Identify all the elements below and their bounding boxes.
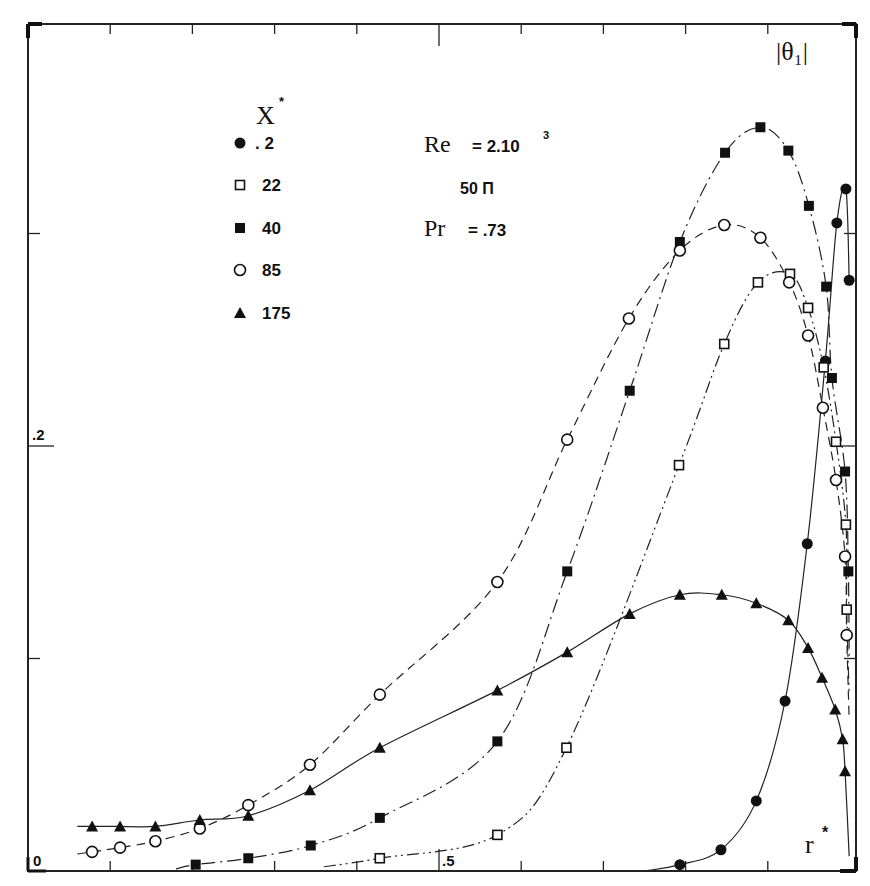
data-point-x-175 <box>802 642 814 653</box>
legend-item-2: 40 <box>235 219 281 238</box>
data-point-x-85 <box>115 842 126 853</box>
data-point-x-40 <box>840 467 850 477</box>
data-point-x-175 <box>839 765 851 776</box>
data-point-x-p2 <box>840 183 851 194</box>
curve-x-22 <box>324 272 849 867</box>
re-value: = 2.10 <box>472 137 520 156</box>
data-point-x-22 <box>675 461 684 470</box>
legend-item-1: 22 <box>236 176 281 195</box>
data-point-x-40 <box>827 373 837 383</box>
curve-x-p2 <box>645 186 850 871</box>
data-point-x-40 <box>375 813 385 823</box>
data-point-x-175 <box>782 614 794 625</box>
data-point-x-p2 <box>780 696 791 707</box>
data-point-x-85 <box>817 402 828 413</box>
data-point-x-85 <box>840 551 851 562</box>
legend-marker-filled-triangle-icon <box>234 307 246 318</box>
x-tick-label-0: 0 <box>33 852 41 869</box>
data-point-x-22 <box>720 340 729 349</box>
data-point-x-175 <box>374 742 386 753</box>
data-point-x-40 <box>306 841 316 851</box>
data-point-x-40 <box>783 146 793 156</box>
data-point-x-85 <box>150 836 161 847</box>
data-point-x-22 <box>841 520 850 529</box>
legend-item-4: 175 <box>234 304 290 323</box>
data-point-x-175 <box>750 597 762 608</box>
legend-marker-filled-square-icon <box>235 223 245 233</box>
pr-label: Pr <box>424 215 445 241</box>
data-point-x-85 <box>803 330 814 341</box>
data-point-x-175 <box>242 810 254 821</box>
data-point-x-22 <box>832 437 841 446</box>
data-point-x-40 <box>625 386 635 396</box>
data-point-x-p2 <box>802 538 813 549</box>
pr-value: = .73 <box>468 221 506 240</box>
re-exponent: 3 <box>543 129 549 141</box>
data-point-x-p2 <box>831 217 842 228</box>
data-point-x-85 <box>87 846 98 857</box>
data-point-x-40 <box>755 122 765 132</box>
data-point-x-40 <box>720 148 730 158</box>
data-point-x-40 <box>191 860 201 870</box>
data-point-x-85 <box>623 313 634 324</box>
data-point-x-p2 <box>844 275 855 286</box>
data-point-x-175 <box>561 646 573 657</box>
data-point-x-22 <box>804 303 813 312</box>
corner-mark-br <box>840 857 856 871</box>
legend-title: X <box>256 101 275 130</box>
legend-title-star: * <box>279 94 285 109</box>
data-point-x-85 <box>304 759 315 770</box>
legend-label: . 2 <box>255 134 274 153</box>
legend-item-0: . 2 <box>235 134 274 153</box>
x-axis-label-text: r <box>805 830 814 859</box>
legend-marker-open-square-icon <box>236 181 245 190</box>
data-point-x-40 <box>492 736 502 746</box>
curve-x-85 <box>77 225 849 854</box>
y-axis-label: |θ₁| <box>776 37 808 66</box>
legend-label: 175 <box>262 304 290 323</box>
data-point-x-85 <box>831 475 842 486</box>
legend-items: . 2224085175 <box>234 134 290 323</box>
data-point-x-85 <box>719 220 730 231</box>
data-point-x-22 <box>562 743 571 752</box>
data-point-x-40 <box>843 566 853 576</box>
data-point-x-85 <box>674 245 685 256</box>
x-axis-label: r * <box>805 824 829 859</box>
data-point-x-22 <box>753 278 762 287</box>
x-axis-label-star: * <box>822 824 829 841</box>
legend-marker-filled-circle-icon <box>235 138 246 149</box>
chart-canvas: 0 .5 .2 |θ₁| r * X * . 2224085175 Re = 2… <box>0 0 870 886</box>
grid-resolution-label: 50 Π <box>460 180 494 197</box>
parameter-annotations: Re = 2.10 3 50 Π Pr = .73 <box>424 129 549 241</box>
data-point-x-p2 <box>674 859 685 870</box>
data-point-x-22 <box>842 605 851 614</box>
x-tick-label-0-5: .5 <box>442 852 455 869</box>
legend-label: 85 <box>262 261 281 280</box>
data-point-x-22 <box>493 830 502 839</box>
data-point-x-85 <box>243 800 254 811</box>
data-point-x-85 <box>492 577 503 588</box>
legend-label: 22 <box>262 176 281 195</box>
data-point-x-175 <box>624 608 636 619</box>
data-point-x-175 <box>829 704 841 715</box>
data-point-x-175 <box>816 672 828 683</box>
data-point-x-85 <box>841 630 852 641</box>
data-point-x-85 <box>562 434 573 445</box>
data-point-x-22 <box>819 363 828 372</box>
legend-marker-open-circle-icon <box>235 265 246 276</box>
legend-label: 40 <box>262 219 281 238</box>
corner-mark-tl <box>28 24 42 38</box>
data-point-x-40 <box>804 201 814 211</box>
legend-item-3: 85 <box>235 261 281 280</box>
data-point-x-175 <box>304 784 316 795</box>
legend: X * . 2224085175 <box>234 94 290 323</box>
data-point-x-85 <box>784 277 795 288</box>
re-label: Re <box>424 131 451 157</box>
data-point-x-40 <box>562 566 572 576</box>
data-point-x-22 <box>375 854 384 863</box>
data-point-x-85 <box>755 232 766 243</box>
corner-mark-tr <box>842 24 856 38</box>
y-tick-label-0-2: .2 <box>32 426 45 443</box>
data-point-x-40 <box>243 853 253 863</box>
data-point-x-175 <box>491 684 503 695</box>
